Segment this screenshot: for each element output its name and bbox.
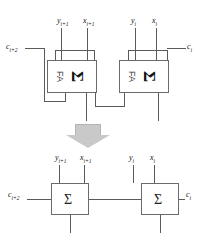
- label-carry-in-c-i-plus-2-top: ci+2: [6, 43, 18, 51]
- wire-sum-out-low-bottom: [160, 215, 161, 233]
- wire-interstage-run: [95, 106, 125, 107]
- wire-x-low-drop-bottom: [154, 165, 155, 183]
- label-x-i-top: xi: [152, 17, 157, 25]
- wire-interstage-down: [124, 92, 125, 106]
- sigma-block-low[interactable]: Σ: [141, 183, 179, 215]
- wire-sum-out-high-bottom: [70, 215, 71, 233]
- label-x-i-bottom: xi: [150, 154, 155, 162]
- arrow-head: [66, 135, 110, 148]
- wire-y-low-drop: [135, 28, 136, 50]
- wire-carry-in-down-top: [44, 48, 45, 101]
- wire-bus-high-right-leg: [94, 50, 95, 60]
- sigma-glyph-high-upright: Σ: [64, 193, 72, 207]
- wire-y-low-drop-bottom: [133, 165, 134, 183]
- label-carry-in-c-i-plus-2-bottom: ci+2: [8, 191, 20, 199]
- sigma-block-high[interactable]: Σ: [51, 183, 89, 215]
- label-x-i-plus-1-bottom: xi+1: [80, 154, 92, 162]
- diagram-canvas: yi+1 xi+1 yi xi ci+2 ci FA Σ: [0, 0, 202, 241]
- label-carry-out-c-i-bottom: ci: [186, 191, 191, 199]
- wire-carry-in-bottom-run: [44, 101, 66, 102]
- wire-bus-high: [55, 50, 95, 51]
- label-x-i-plus-1-top: xi+1: [83, 17, 95, 25]
- sigma-glyph-low-rotated: Σ: [141, 71, 158, 82]
- label-y-i-plus-1-bottom: yi+1: [55, 154, 67, 162]
- label-y-i-plus-1-top: yi+1: [57, 17, 69, 25]
- wire-carry-in-stub-top: [25, 48, 45, 49]
- wire-interstage-up-into-high: [95, 92, 96, 107]
- wire-y-low-to-box: [135, 50, 136, 60]
- wire-y-high-to-box: [61, 50, 62, 60]
- wire-bus-high-left-leg: [55, 50, 56, 60]
- wire-bus-low-right-leg: [167, 50, 168, 60]
- wire-x-low-to-box: [156, 50, 157, 60]
- wire-carry-out-bottom: [179, 199, 185, 200]
- equivalence-arrow-icon: [66, 124, 110, 149]
- sigma-glyph-high-rotated: Σ: [69, 71, 86, 82]
- wire-x-high-drop: [87, 28, 88, 50]
- wire-x-high-to-box: [87, 50, 88, 60]
- wire-carry-out-stub-top: [167, 48, 186, 49]
- label-y-i-top: yi: [131, 17, 136, 25]
- wire-y-high-drop-bottom: [59, 165, 60, 183]
- full-adder-block-high[interactable]: FA Σ: [47, 60, 97, 93]
- label-y-i-bottom: yi: [129, 154, 134, 162]
- wire-x-low-drop: [156, 28, 157, 50]
- sigma-glyph-low-upright: Σ: [154, 193, 162, 207]
- wire-sum-out-low-top: [158, 93, 159, 121]
- fa-label-low: FA: [127, 71, 136, 82]
- wire-x-high-drop-bottom: [84, 165, 85, 183]
- fa-label-high: FA: [55, 71, 64, 82]
- wire-sum-out-high-top: [86, 93, 87, 121]
- wire-carry-in-bottom: [27, 199, 51, 200]
- full-adder-block-low[interactable]: FA Σ: [119, 60, 169, 93]
- wire-carry-between-bottom: [89, 199, 141, 200]
- wire-bus-low: [128, 50, 168, 51]
- wire-carry-in-into-box-high: [65, 92, 66, 102]
- label-carry-out-c-i-top: ci: [187, 43, 192, 51]
- wire-bus-low-left-leg: [128, 50, 129, 60]
- wire-y-high-drop: [61, 28, 62, 50]
